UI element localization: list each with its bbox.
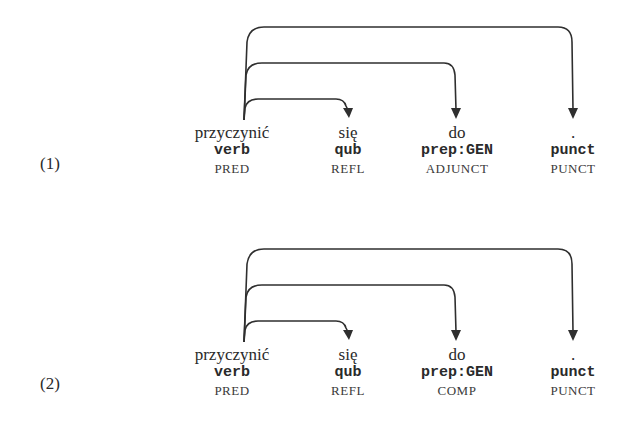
- token-word: .: [513, 124, 633, 142]
- token-word: przyczynić: [172, 124, 292, 142]
- arrowhead-icon: [343, 108, 353, 118]
- arc-pred-punct: [244, 249, 573, 342]
- token-label: PRED: [172, 160, 292, 178]
- token-tag: qub: [288, 364, 408, 382]
- token-label: ADJUNCT: [397, 160, 517, 178]
- token-word: przyczynić: [172, 346, 292, 364]
- dependency-arcs: [0, 0, 641, 220]
- dependency-arcs: [0, 222, 641, 442]
- arc-pred-punct: [244, 27, 573, 120]
- token-label: REFL: [288, 382, 408, 400]
- example-2: (2) przyczynić verb PRED się qub REFL do…: [0, 222, 641, 442]
- token-tag: prep:GEN: [397, 364, 517, 382]
- token-word: do: [397, 346, 517, 364]
- arrowhead-icon: [568, 108, 578, 119]
- token-tag: punct: [513, 142, 633, 160]
- token-label: PRED: [172, 382, 292, 400]
- token-przyczynic: przyczynić verb PRED: [172, 124, 292, 178]
- token-word: się: [288, 346, 408, 364]
- token-period: . punct PUNCT: [513, 124, 633, 178]
- arc-pred-refl: [244, 321, 348, 342]
- token-label: PUNCT: [513, 382, 633, 400]
- token-tag: verb: [172, 364, 292, 382]
- token-sie: się qub REFL: [288, 124, 408, 178]
- token-label: REFL: [288, 160, 408, 178]
- token-do: do prep:GEN COMP: [397, 346, 517, 400]
- token-word: .: [513, 346, 633, 364]
- token-word: się: [288, 124, 408, 142]
- arrowhead-icon: [451, 330, 461, 341]
- token-word: do: [397, 124, 517, 142]
- token-label: COMP: [397, 382, 517, 400]
- token-do: do prep:GEN ADJUNCT: [397, 124, 517, 178]
- arrowhead-icon: [451, 108, 461, 119]
- token-przyczynic: przyczynić verb PRED: [172, 346, 292, 400]
- token-tag: qub: [288, 142, 408, 160]
- arc-pred-refl: [244, 99, 348, 120]
- token-sie: się qub REFL: [288, 346, 408, 400]
- token-label: PUNCT: [513, 160, 633, 178]
- example-1: (1) przyczynić verb PRED się qub REFL do…: [0, 0, 641, 220]
- example-number: (2): [40, 374, 60, 394]
- token-tag: punct: [513, 364, 633, 382]
- arrowhead-icon: [568, 330, 578, 341]
- token-period: . punct PUNCT: [513, 346, 633, 400]
- arrowhead-icon: [343, 330, 353, 340]
- token-tag: verb: [172, 142, 292, 160]
- example-number: (1): [40, 154, 60, 174]
- token-tag: prep:GEN: [397, 142, 517, 160]
